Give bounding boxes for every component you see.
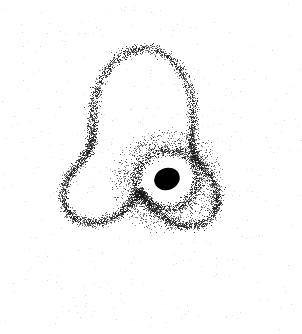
- point-cloud-canvas: [0, 0, 302, 334]
- scatter-plot-figure: [0, 0, 302, 334]
